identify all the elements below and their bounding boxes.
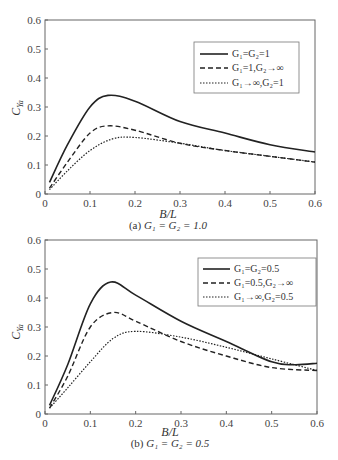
y-tick-label: 0.2 — [27, 350, 41, 362]
x-tick-label: 0 — [42, 197, 48, 209]
legend: G₁=G₂=0.5 G₁=0.5,G₂→∞ G₁→∞,G₂=0.5 — [198, 258, 316, 306]
legend-label-1: G₁=0.5,G₂→∞ — [234, 277, 293, 288]
x-tick-label: 0.5 — [265, 417, 279, 429]
x-tick-label: 0.1 — [83, 417, 97, 429]
y-tick-label: 0.2 — [27, 130, 41, 142]
x-tick-label: 0.5 — [263, 197, 277, 209]
y-tick-label: 0.6 — [27, 234, 41, 246]
y-tick-label: 0 — [36, 188, 42, 200]
y-tick-label: 0.5 — [27, 263, 41, 275]
chart-a: 00.10.20.30.40.50.6 00.10.20.30.40.50.6 … — [9, 14, 322, 232]
caption: (a) G₁ = G₂ = 1.0 — [129, 219, 208, 232]
series-line-0 — [50, 95, 316, 182]
y-tick-label: 0.4 — [27, 72, 41, 84]
legend-label-1: G₁=1,G₂→∞ — [232, 62, 284, 73]
y-tick-label: 0.1 — [27, 379, 41, 391]
y-tick-label: 0.5 — [27, 43, 41, 55]
y-tick-label: 0 — [36, 408, 42, 420]
x-tick-label: 0.6 — [310, 417, 324, 429]
x-tick-label: 0.6 — [308, 197, 322, 209]
y-tick-label: 0.3 — [27, 101, 41, 113]
y-axis-label: CYa — [9, 324, 25, 340]
caption: (b) G₁ = G₂ = 0.5 — [131, 437, 210, 450]
x-tick-label: 0.2 — [129, 417, 143, 429]
y-tick-label: 0.3 — [27, 321, 41, 333]
chart-b: 00.10.20.30.40.50.6 00.10.20.30.40.50.6 … — [9, 234, 324, 450]
series-line-1 — [50, 312, 317, 408]
y-tick-label: 0.6 — [27, 14, 41, 26]
y-axis-label: CYa — [9, 100, 25, 116]
y-tick-label: 0.4 — [27, 292, 41, 304]
legend-label-0: G₁=G₂=1 — [232, 48, 270, 59]
x-tick-label: 0.2 — [128, 197, 142, 209]
figure: 00.10.20.30.40.50.6 00.10.20.30.40.50.6 … — [0, 0, 338, 460]
series-lines — [50, 95, 316, 189]
x-tick-label: 0.4 — [219, 417, 233, 429]
legend-label-2: G₁→∞,G₂=0.5 — [234, 291, 293, 302]
x-tick-label: 0.4 — [218, 197, 232, 209]
legend-label-0: G₁=G₂=0.5 — [234, 263, 279, 274]
y-tick-label: 0.1 — [27, 159, 41, 171]
x-tick-label: 0 — [42, 417, 48, 429]
legend: G₁=G₂=1 G₁=1,G₂→∞ G₁→∞,G₂=1 — [194, 42, 299, 93]
legend-label-2: G₁→∞,G₂=1 — [232, 77, 284, 88]
x-tick-label: 0.1 — [83, 197, 97, 209]
